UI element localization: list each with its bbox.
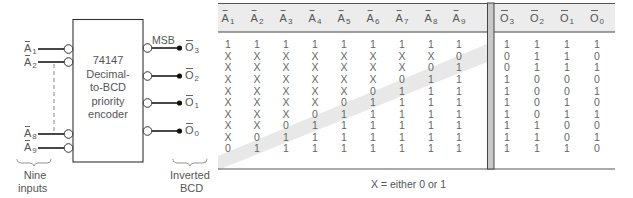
table-cell-input: 1	[399, 86, 405, 97]
table-cell-output: 1	[534, 120, 540, 131]
column-header-input: A9	[453, 12, 466, 26]
header-subscript: 9	[461, 17, 465, 26]
table-cell-output: 0	[504, 51, 510, 62]
table-cell-output: 0	[594, 51, 600, 62]
table-cell-input: X	[253, 97, 260, 108]
table-cell-input: 1	[428, 74, 434, 85]
table-cell-input: 0	[283, 120, 289, 131]
output-label-o0: O0	[185, 125, 199, 138]
inputs-caption-line1: Nine	[23, 170, 47, 181]
table-cell-output: 1	[534, 143, 540, 154]
table-cell-output: 1	[504, 86, 510, 97]
table-cell-input: X	[282, 97, 289, 108]
chip-label: 74147 Decimal- to-BCD priority encoder	[73, 54, 143, 122]
column-header-input: A1	[222, 12, 235, 26]
table-footnote: X = either 0 or 1	[371, 178, 446, 190]
column-header-output: O0	[590, 12, 604, 26]
chip-desc-line: encoder	[73, 108, 143, 122]
table-cell-input: X	[311, 51, 318, 62]
table-cell-input: 1	[456, 74, 462, 85]
table-cell-output: 1	[534, 51, 540, 62]
table-cell-input: 1	[399, 97, 405, 108]
table-cell-input: 1	[312, 39, 318, 50]
table-cell-input: X	[369, 51, 376, 62]
table-cell-input: X	[369, 62, 376, 73]
table-cell-input: X	[224, 86, 231, 97]
table-cell-input: 1	[399, 143, 405, 154]
table-cell-input: 1	[399, 132, 405, 143]
header-letter: O	[590, 12, 599, 24]
table-cell-input: 1	[370, 120, 376, 131]
chip-part-number: 74147	[73, 54, 143, 68]
table-cell-input: 1	[283, 132, 289, 143]
table-cell-output: 1	[504, 109, 510, 120]
header-letter: O	[560, 12, 569, 24]
table-cell-input: 1	[456, 120, 462, 131]
table-cell-input: X	[253, 62, 260, 73]
table-cell-output: 0	[594, 74, 600, 85]
table-cell-input: X	[340, 62, 347, 73]
column-header-input: A5	[338, 12, 351, 26]
table-cell-input: 0	[399, 74, 405, 85]
header-letter: A	[453, 12, 460, 24]
table-cell-input: 0	[225, 143, 231, 154]
table-cell-input: X	[224, 97, 231, 108]
table-cell-input: 0	[428, 62, 434, 73]
table-cell-output: 1	[594, 86, 600, 97]
table-cell-input: 1	[456, 109, 462, 120]
table-cell-input: X	[224, 109, 231, 120]
table-cell-input: X	[340, 74, 347, 85]
header-letter: A	[338, 12, 345, 24]
table-cell-input: 1	[370, 97, 376, 108]
header-letter: O	[530, 12, 539, 24]
table-cell-output: 1	[564, 109, 570, 120]
table-cell-input: X	[311, 62, 318, 73]
table-cell-input: 1	[428, 86, 434, 97]
table-cell-input: 1	[312, 120, 318, 131]
table-cell-input: X	[398, 51, 405, 62]
chip-desc-line: to-BCD	[73, 81, 143, 95]
table-cell-input: 1	[370, 109, 376, 120]
table-cell-input: X	[282, 74, 289, 85]
header-letter: A	[425, 12, 432, 24]
column-header-output: O2	[530, 12, 544, 26]
table-cell-input: 1	[456, 132, 462, 143]
header-subscript: 2	[259, 17, 263, 26]
outputs-caption-line1: Inverted	[170, 170, 210, 181]
output-pins	[143, 44, 182, 136]
inputs-brace	[17, 159, 51, 166]
table-cell-input: 0	[456, 51, 462, 62]
outputs-brace	[173, 159, 207, 166]
header-subscript: 2	[540, 17, 544, 26]
header-subscript: 6	[375, 17, 379, 26]
table-cell-input: X	[311, 97, 318, 108]
table-cell-input: X	[224, 51, 231, 62]
table-cell-output: 1	[534, 39, 540, 50]
table-cell-input: X	[282, 86, 289, 97]
table-cell-input: 1	[428, 109, 434, 120]
header-letter: A	[222, 12, 229, 24]
header-letter: A	[280, 12, 287, 24]
table-cell-input: 1	[456, 62, 462, 73]
header-letter: A	[396, 12, 403, 24]
table-cell-input: X	[282, 51, 289, 62]
table-cell-output: 1	[564, 97, 570, 108]
table-cell-input: 1	[399, 39, 405, 50]
table-cell-output: 1	[504, 97, 510, 108]
outputs-caption-line2: BCD	[180, 183, 203, 194]
table-cell-output: 1	[504, 132, 510, 143]
header-letter: O	[500, 12, 509, 24]
inputs-caption-line2: inputs	[18, 183, 47, 194]
table-cell-output: 0	[504, 62, 510, 73]
chip-desc-line: priority	[73, 95, 143, 109]
table-cell-input: 1	[456, 39, 462, 50]
table-cell-input: 1	[225, 39, 231, 50]
table-cell-input: 1	[456, 86, 462, 97]
table-cell-output: 1	[564, 143, 570, 154]
table-cell-input: X	[253, 109, 260, 120]
table-cell-input: X	[224, 62, 231, 73]
table-cell-input: X	[253, 74, 260, 85]
column-header-output: O1	[560, 12, 574, 26]
header-letter: A	[309, 12, 316, 24]
table-cell-input: X	[253, 51, 260, 62]
